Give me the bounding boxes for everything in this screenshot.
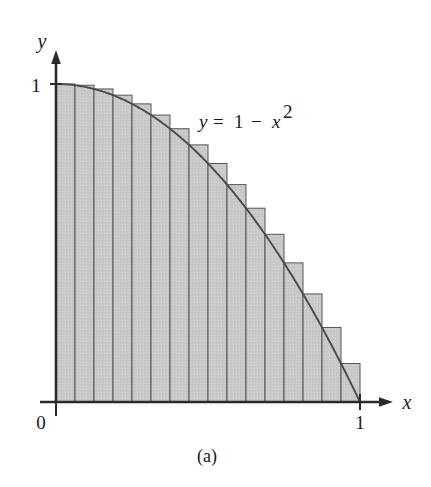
x-tick-label-1: 1 — [355, 412, 365, 433]
approximating-rectangle — [170, 129, 189, 402]
equation-one: 1 — [234, 111, 244, 132]
approximating-rectangle — [189, 145, 208, 402]
origin-label: 0 — [36, 412, 46, 433]
approximating-rectangle — [322, 327, 341, 402]
equation-exponent: 2 — [283, 101, 293, 122]
equation-equals: = — [213, 111, 224, 132]
approximating-rectangle — [94, 89, 113, 402]
figure-container: y x 1 1 0 y = 1 − x 2 (a) — [0, 0, 431, 487]
approximating-rectangle — [113, 95, 132, 402]
figure-caption: (a) — [197, 446, 217, 467]
equation-minus: − — [251, 111, 262, 132]
x-axis-label: x — [402, 391, 412, 413]
approximating-rectangle — [246, 208, 265, 402]
equation-y: y — [197, 111, 208, 132]
integral-approximation-figure: y x 1 1 0 y = 1 − x 2 (a) — [0, 0, 431, 487]
y-tick-label-1: 1 — [31, 75, 41, 96]
equation-x: x — [271, 111, 281, 132]
approximating-rectangle — [208, 164, 227, 403]
approximating-rectangle — [132, 104, 151, 402]
approximating-rectangle — [75, 85, 94, 402]
approximating-rectangle — [56, 84, 75, 402]
approximating-rectangle — [284, 263, 303, 402]
y-axis-label: y — [36, 30, 47, 53]
approximating-rectangle — [151, 115, 170, 402]
approximating-rectangle — [227, 185, 246, 402]
